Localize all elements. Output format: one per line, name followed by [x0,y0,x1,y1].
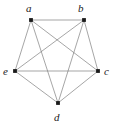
graph-edge-bc [84,20,98,71]
graph-edge-bd [58,20,84,103]
vertex-label-b: b [78,3,84,14]
vertex-label-c: c [104,66,109,77]
graph-vertex-e [13,69,17,73]
graph-edge-ae [15,20,31,71]
graph-edge-be [15,20,84,71]
graph-vertex-a [29,18,33,22]
graph-vertex-c [96,69,100,73]
graph-edge-cd [58,71,98,103]
graph-vertex-b [82,18,86,22]
graph-edge-de [15,71,58,103]
graph-figure: abcde [0,0,117,134]
edge-layer [15,20,98,103]
graph-edge-ad [31,20,58,103]
vertex-label-e: e [3,66,8,77]
vertex-label-d: d [54,112,60,123]
graph-edge-ac [31,20,98,71]
graph-vertex-d [56,101,60,105]
vertex-label-a: a [26,3,32,14]
